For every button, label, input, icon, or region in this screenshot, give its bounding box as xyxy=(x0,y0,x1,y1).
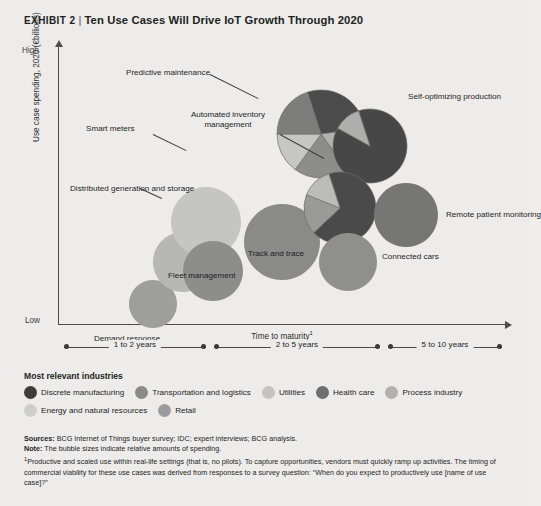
bubble-label-automated-inventory-management: Automated inventory management xyxy=(176,110,280,130)
x-axis-footnote-marker: 1 xyxy=(310,330,313,336)
legend-swatch-icon xyxy=(24,404,37,417)
legend-item-discrete-manufacturing[interactable]: Discrete manufacturing xyxy=(24,386,124,399)
bubble-label-remote-patient-monitoring: Remote patient monitoring xyxy=(446,210,541,220)
bubble-label-fleet-management: Fleet management xyxy=(168,271,236,281)
bubble-label-smart-meters: Smart meters xyxy=(86,124,135,134)
note-text: The bubble sizes indicate relative amoun… xyxy=(44,444,221,453)
y-axis-low-label: Low xyxy=(25,316,40,325)
legend-item-label: Discrete manufacturing xyxy=(41,388,124,397)
legend-item-process-industry[interactable]: Process industry xyxy=(385,386,462,399)
band-label: 5 to 10 years xyxy=(417,340,474,349)
legend-title: Most relevant industries xyxy=(24,371,123,381)
note-line: Note: The bubble sizes indicate relative… xyxy=(24,444,510,454)
sources-line: Sources: BCG Internet of Things buyer su… xyxy=(24,434,510,444)
legend-swatch-icon xyxy=(316,386,329,399)
band-endpoint-right xyxy=(497,344,502,349)
band-endpoint-left xyxy=(388,344,393,349)
bubble-connected-cars[interactable] xyxy=(319,233,377,291)
legend-swatch-icon xyxy=(135,386,148,399)
legend-item-label: Energy and natural resources xyxy=(41,406,147,415)
footnotes: Sources: BCG Internet of Things buyer su… xyxy=(24,434,510,489)
maturity-band-3: 5 to 10 years xyxy=(388,341,502,355)
bubble-label-distributed-generation-and-storage: Distributed generation and storage xyxy=(70,184,194,194)
band-label: 1 to 2 years xyxy=(109,340,161,349)
y-axis-line xyxy=(58,46,59,325)
bubble-label-connected-cars: Connected cars xyxy=(382,252,439,262)
legend-swatch-icon xyxy=(158,404,171,417)
legend-item-label: Process industry xyxy=(402,388,462,397)
sources-label: Sources: xyxy=(24,434,55,443)
legend-item-label: Retail xyxy=(175,406,196,415)
band-endpoint-right xyxy=(201,344,206,349)
page-title: EXHIBIT 2|Ten Use Cases Will Drive IoT G… xyxy=(24,14,514,26)
legend-swatch-icon xyxy=(385,386,398,399)
y-axis-label: Use case spending, 2020 (€billions) xyxy=(32,12,41,142)
x-axis-line xyxy=(58,324,506,325)
legend-row-2: Energy and natural resourcesRetail xyxy=(24,404,514,417)
leader-line xyxy=(153,134,186,151)
legend-row-1: Discrete manufacturingTransportation and… xyxy=(24,386,514,399)
bubble-slice-health-care xyxy=(374,183,438,247)
legend-item-retail[interactable]: Retail xyxy=(158,404,196,417)
bubble-remote-patient-monitoring[interactable] xyxy=(374,183,438,247)
legend-item-utilities[interactable]: Utilities xyxy=(262,386,305,399)
legend-item-label: Health care xyxy=(333,388,374,397)
band-endpoint-right xyxy=(375,344,380,349)
bubble-label-track-and-trace: Track and trace xyxy=(248,249,304,259)
legend-swatch-icon xyxy=(262,386,275,399)
plot-area: Use case spending, 2020 (€billions) Time… xyxy=(58,46,506,325)
bubble-slice-transportation-and-logistics xyxy=(319,233,377,291)
note-label: Note: xyxy=(24,444,42,453)
band-endpoint-left xyxy=(64,344,69,349)
maturity-band-2: 2 to 5 years xyxy=(214,341,380,355)
bubble-label-predictive-maintenance: Predictive maintenance xyxy=(126,68,210,78)
legend-item-transportation-and-logistics[interactable]: Transportation and logistics xyxy=(135,386,251,399)
footnote-text: Productive and scaled use within real-li… xyxy=(24,457,496,487)
bubble-label-self-optimizing-production: Self-optimizing production xyxy=(408,92,501,102)
band-endpoint-left xyxy=(214,344,219,349)
maturity-band-1: 1 to 2 years xyxy=(64,341,206,355)
exhibit-title: Ten Use Cases Will Drive IoT Growth Thro… xyxy=(84,14,363,26)
leader-line xyxy=(210,74,258,99)
legend-item-energy-and-natural-resources[interactable]: Energy and natural resources xyxy=(24,404,147,417)
legend-swatch-icon xyxy=(24,386,37,399)
footnote-line: 1Productive and scaled use within real-l… xyxy=(24,455,510,489)
legend-item-label: Utilities xyxy=(279,388,305,397)
legend-item-label: Transportation and logistics xyxy=(152,388,251,397)
industry-legend: Discrete manufacturingTransportation and… xyxy=(24,386,514,422)
maturity-band-axis: 1 to 2 years2 to 5 years5 to 10 years xyxy=(58,341,506,355)
band-label: 2 to 5 years xyxy=(271,340,323,349)
sources-text: BCG Internet of Things buyer survey; IDC… xyxy=(57,434,297,443)
legend-item-health-care[interactable]: Health care xyxy=(316,386,374,399)
